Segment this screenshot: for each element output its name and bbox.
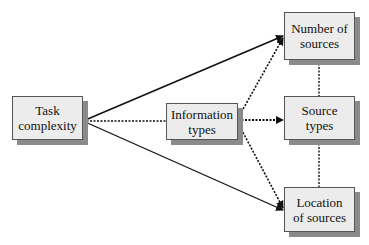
node-information-types: Information types [166, 103, 238, 140]
node-location-of-sources: Location of sources [284, 187, 355, 232]
edge-info-to-location [238, 123, 283, 208]
node-source-types: Source types [284, 96, 355, 140]
edge-info-to-number [238, 38, 283, 118]
node-number-of-sources: Number of sources [284, 12, 355, 60]
node-task-complexity: Task complexity [12, 96, 83, 140]
